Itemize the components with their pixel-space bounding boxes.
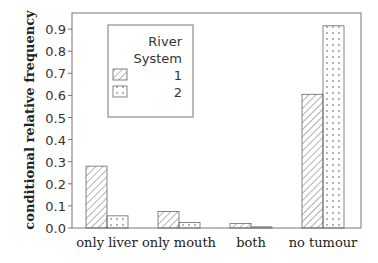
legend: River System 1 2 — [108, 25, 193, 117]
legend-swatch-hatch-icon — [113, 69, 127, 80]
y-tick-label: 0.0 — [45, 221, 66, 236]
x-category-label: no tumour — [289, 235, 358, 250]
legend-title-line1: River — [148, 34, 182, 49]
chart: 0.00.10.20.30.40.50.60.70.80.9 condition… — [0, 0, 378, 263]
legend-label-2: 2 — [174, 85, 182, 100]
x-category-label: only liver — [76, 235, 138, 250]
bar-no-tumour-series-2 — [323, 26, 344, 228]
y-tick-label: 0.4 — [45, 133, 66, 148]
y-tick-label: 0.1 — [45, 199, 66, 214]
bar-only-liver-series-1 — [86, 166, 107, 228]
y-tick-label: 0.8 — [45, 44, 66, 59]
y-axis: 0.00.10.20.30.40.50.60.70.80.9 — [45, 22, 72, 236]
y-tick-label: 0.2 — [45, 177, 66, 192]
y-tick-label: 0.5 — [45, 111, 66, 126]
bar-both-series-1 — [230, 224, 251, 228]
y-tick-label: 0.3 — [45, 155, 66, 170]
x-axis: only liveronly mouthbothno tumour — [76, 235, 358, 250]
legend-title-line2: System — [134, 51, 182, 66]
y-tick-label: 0.7 — [45, 66, 66, 81]
bar-only-mouth-series-1 — [158, 211, 179, 228]
bar-only-liver-series-2 — [107, 216, 128, 228]
y-axis-label: conditional relative frequency — [22, 10, 37, 230]
x-category-label: both — [236, 235, 266, 250]
bar-both-series-2 — [251, 227, 272, 228]
y-tick-label: 0.9 — [45, 22, 66, 37]
legend-label-1: 1 — [174, 68, 182, 83]
y-tick-label: 0.6 — [45, 88, 66, 103]
legend-swatch-dots-icon — [113, 86, 127, 97]
bar-no-tumour-series-1 — [302, 94, 323, 228]
bar-only-mouth-series-2 — [179, 222, 200, 228]
x-category-label: only mouth — [142, 235, 217, 250]
